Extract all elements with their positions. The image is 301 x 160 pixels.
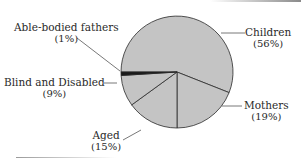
label-blind-disabled-name: Blind and Disabled xyxy=(4,76,105,88)
label-aged-pct: (15%) xyxy=(91,141,121,152)
label-children-pct: (56%) xyxy=(245,38,291,49)
label-children: Children (56%) xyxy=(245,27,291,49)
label-blind-disabled: Blind and Disabled (9%) xyxy=(4,77,105,99)
label-mothers: Mothers (19%) xyxy=(244,100,289,122)
label-blind-disabled-pct: (9%) xyxy=(4,88,105,99)
label-mothers-name: Mothers xyxy=(244,99,289,111)
leader-aged xyxy=(123,130,141,140)
label-aged: Aged (15%) xyxy=(91,130,121,152)
label-aged-name: Aged xyxy=(92,129,119,141)
label-able-bodied-fathers-name: Able-bodied fathers xyxy=(14,21,119,33)
bottom-rule xyxy=(16,157,116,158)
label-able-bodied-fathers-pct: (1%) xyxy=(14,33,119,44)
label-able-bodied-fathers: Able-bodied fathers (1%) xyxy=(14,22,119,44)
label-children-name: Children xyxy=(245,26,291,38)
label-mothers-pct: (19%) xyxy=(244,111,289,122)
